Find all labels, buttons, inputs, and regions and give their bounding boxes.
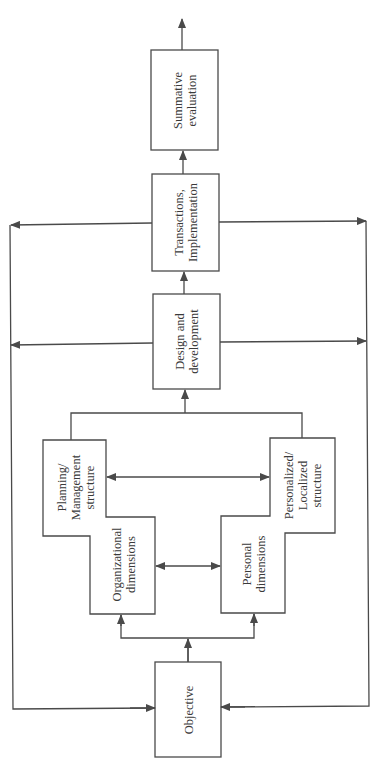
feedback-right-from-design	[220, 341, 366, 342]
flow-diagram: Summative evaluation Transactions, Imple…	[0, 0, 384, 762]
summative-evaluation-label: Summative evaluation	[151, 51, 218, 151]
split-bar-bottom	[121, 614, 254, 638]
transactions-implementation-label: Transactions, Implementation	[152, 174, 219, 271]
merge-bar-top	[71, 413, 302, 440]
organizational-dimensions-label: Organizational dimensions	[91, 516, 156, 614]
personalized-localized-label: Personalized/ Localized structure	[270, 438, 335, 533]
objective-label: Objective	[156, 663, 222, 758]
feedback-left-from-design	[11, 343, 153, 345]
design-development-label: Design and development	[153, 294, 220, 389]
feedback-left-from-transactions	[11, 223, 152, 225]
feedback-right-from-transactions	[219, 221, 366, 222]
